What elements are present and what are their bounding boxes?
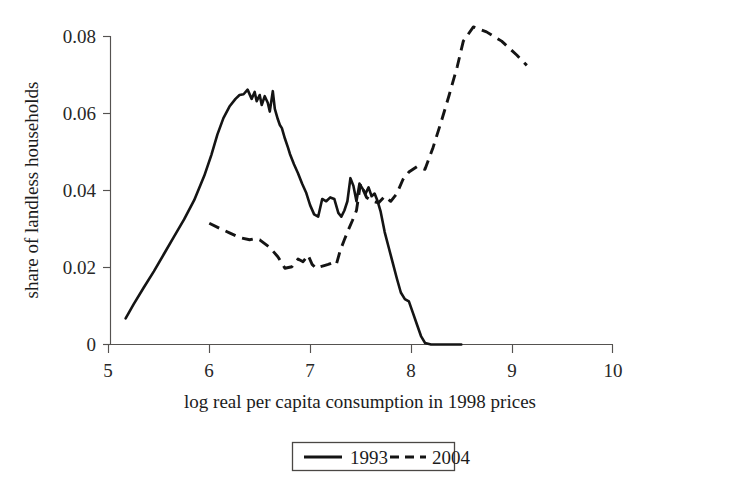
x-tick-label-8: 8	[406, 360, 416, 381]
line-chart-svg: 0.08 0.06 0.04 0.02 0 5 6 7 8 9 10 log r…	[0, 0, 744, 503]
y-tick-label-0.06: 0.06	[63, 103, 96, 124]
x-tick-label-7: 7	[305, 360, 315, 381]
legend-label-1993: 1993	[350, 447, 388, 468]
x-axis-ticks	[109, 345, 613, 354]
x-tick-label-10: 10	[604, 360, 623, 381]
y-tick-label-0: 0	[87, 334, 97, 355]
x-tick-label-5: 5	[103, 360, 113, 381]
x-axis-title: log real per capita consumption in 1998 …	[184, 391, 536, 412]
chart-legend: 1993 2004	[293, 443, 471, 471]
series-line-1993	[126, 90, 462, 345]
series-line-2004	[209, 27, 527, 268]
x-tick-label-6: 6	[204, 360, 214, 381]
y-tick-label-0.04: 0.04	[63, 180, 97, 201]
chart-figure: 0.08 0.06 0.04 0.02 0 5 6 7 8 9 10 log r…	[0, 0, 744, 503]
y-tick-label-0.02: 0.02	[63, 257, 96, 278]
x-tick-label-9: 9	[507, 360, 517, 381]
y-axis-title: share of landless households	[21, 82, 42, 299]
legend-label-2004: 2004	[432, 447, 471, 468]
y-tick-label-0.08: 0.08	[63, 26, 96, 47]
y-axis-ticks	[103, 37, 111, 345]
